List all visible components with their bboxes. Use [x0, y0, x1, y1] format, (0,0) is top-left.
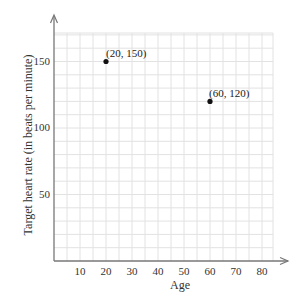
y-tick-100: 100	[34, 121, 51, 133]
x-tick-50: 50	[179, 265, 190, 277]
y-tick-150: 150	[34, 55, 51, 67]
chart: 10 20 30 40 50 60 70 80 50 100 150 (20, …	[0, 0, 302, 304]
y-axis-label: Target heart rate (in beats per minute)	[21, 55, 36, 236]
y-tick-50: 50	[39, 188, 50, 200]
plot-area	[0, 0, 302, 304]
x-tick-60: 60	[205, 265, 216, 277]
x-tick-80: 80	[257, 265, 268, 277]
x-tick-20: 20	[101, 265, 112, 277]
annotation-point-2: (60, 120)	[209, 87, 249, 99]
x-axis-label: Age	[170, 278, 190, 293]
data-point	[207, 99, 212, 104]
axes	[51, 15, 289, 265]
grid	[54, 33, 273, 261]
x-tick-10: 10	[75, 265, 86, 277]
x-tick-70: 70	[231, 265, 242, 277]
data-point	[103, 59, 108, 64]
annotation-point-1: (20, 150)	[106, 47, 146, 59]
x-tick-30: 30	[127, 265, 138, 277]
x-tick-40: 40	[153, 265, 164, 277]
